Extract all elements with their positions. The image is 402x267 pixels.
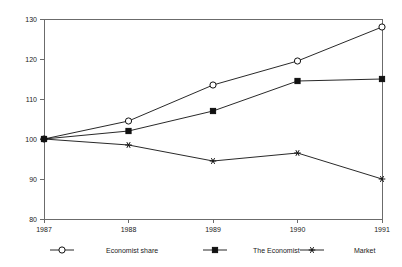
x-axis: 19871988198919901991 xyxy=(36,219,390,233)
marker-filled-square xyxy=(212,247,217,252)
x-tick-label: 1990 xyxy=(290,226,306,233)
chart-canvas: 8090100110120130 19871988198919901991 Ec… xyxy=(0,0,402,267)
marker-star xyxy=(210,158,217,164)
marker-star xyxy=(309,247,316,253)
marker-filled-square xyxy=(379,76,384,81)
legend-label: The Economist xyxy=(253,247,300,254)
y-tick-label: 80 xyxy=(29,216,37,223)
legend-label: Economist share xyxy=(106,247,158,254)
y-tick-label: 130 xyxy=(25,16,37,23)
line-chart-figure: 8090100110120130 19871988198919901991 Ec… xyxy=(0,0,402,267)
y-tick-label: 90 xyxy=(29,176,37,183)
x-tick-label: 1989 xyxy=(205,226,221,233)
series-market xyxy=(41,136,386,182)
series-economist-share xyxy=(41,24,385,142)
legend-label: Market xyxy=(354,247,375,254)
x-tick-label: 1987 xyxy=(36,226,52,233)
plot-frame xyxy=(44,19,382,219)
marker-star xyxy=(125,142,132,148)
y-tick-label: 120 xyxy=(25,56,37,63)
marker-open-circle xyxy=(379,24,385,30)
legend-item-economist-share[interactable]: Economist share xyxy=(50,247,158,254)
y-tick-label: 100 xyxy=(25,136,37,143)
marker-open-circle xyxy=(294,58,300,64)
marker-star xyxy=(294,150,301,156)
marker-open-circle xyxy=(125,118,131,124)
series-line xyxy=(44,139,382,179)
y-axis: 8090100110120130 xyxy=(25,16,44,223)
marker-filled-square xyxy=(210,108,215,113)
chart-legend: Economist shareThe EconomistMarket xyxy=(50,247,375,254)
marker-filled-square xyxy=(126,128,131,133)
marker-open-circle xyxy=(59,247,65,253)
x-tick-label: 1991 xyxy=(374,226,390,233)
y-tick-label: 110 xyxy=(26,96,37,103)
plot-border xyxy=(44,19,382,219)
legend-item-market[interactable]: Market xyxy=(300,247,375,254)
marker-open-circle xyxy=(210,82,216,88)
legend-item-the-economist[interactable]: The Economist xyxy=(203,247,300,254)
marker-filled-square xyxy=(295,78,300,83)
data-series-group xyxy=(41,24,386,182)
x-tick-label: 1988 xyxy=(121,226,137,233)
